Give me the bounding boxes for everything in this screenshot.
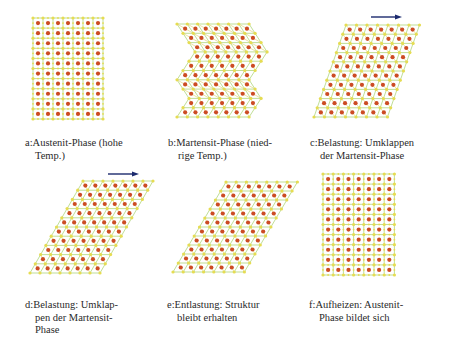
- panel-label: c:: [310, 137, 318, 150]
- caption-line: f: Aufheizen: Austenit-: [309, 299, 403, 312]
- caption-f: f: Aufheizen: Austenit-Phase bildet sich: [309, 299, 403, 324]
- caption-line: rige Temp.): [168, 150, 272, 163]
- panel-label: a:: [25, 137, 33, 150]
- caption-d: d: Belastung: Umklap-pen der Martensit-P…: [25, 299, 118, 337]
- lattice-panel-a: [31, 16, 104, 120]
- caption-line: b: Martensit-Phase (nied-: [168, 137, 272, 150]
- lattice-panel-d: [28, 171, 154, 274]
- lattice-panel-b: [175, 22, 268, 118]
- caption-b: b: Martensit-Phase (nied-rige Temp.): [168, 137, 272, 162]
- shear-arrow-icon: [108, 171, 139, 176]
- panel-label: d:: [25, 299, 33, 312]
- lattice-panel-c: [312, 14, 421, 118]
- caption-line: Phase: [25, 324, 118, 337]
- caption-line: a: Austenit-Phase (hohe: [25, 137, 123, 150]
- caption-a: a: Austenit-Phase (hoheTemp.): [25, 137, 123, 162]
- panel-label: f:: [309, 299, 315, 312]
- lattice-panel-f: [321, 172, 396, 276]
- lattice-panel-e: [171, 180, 299, 273]
- caption-line: e: Entlastung: Struktur: [167, 299, 259, 312]
- caption-c: c: Belastung: Umklappender Martensit-Pha…: [310, 137, 414, 162]
- lattice-figure: [0, 0, 463, 345]
- caption-line: der Martensit-Phase: [310, 150, 414, 163]
- caption-e: e: Entlastung: Strukturbleibt erhalten: [167, 299, 259, 324]
- caption-line: bleibt erhalten: [167, 312, 259, 325]
- caption-line: d: Belastung: Umklap-: [25, 299, 118, 312]
- panel-label: b:: [168, 137, 176, 150]
- caption-line: Temp.): [25, 150, 123, 163]
- shear-arrow-icon: [371, 14, 402, 19]
- caption-line: c: Belastung: Umklappen: [310, 137, 414, 150]
- caption-line: Phase bildet sich: [309, 312, 403, 325]
- panel-label: e:: [167, 299, 175, 312]
- caption-line: pen der Martensit-: [25, 312, 118, 325]
